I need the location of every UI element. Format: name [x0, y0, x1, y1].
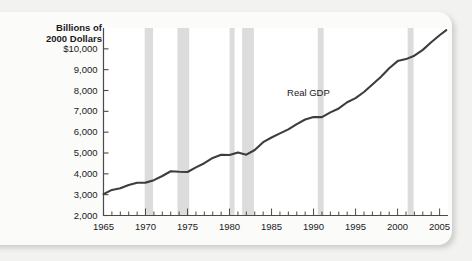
x-axis-tick-label: 2000: [378, 221, 418, 232]
y-axis-tick-label: 2,000: [42, 210, 98, 221]
y-axis-title: Billions of 2000 Dollars: [24, 22, 102, 44]
y-axis-tick-label: $10,000: [42, 43, 98, 54]
plot-background: [104, 28, 449, 216]
x-axis-tick-label: 1965: [84, 221, 124, 232]
recession-band: [177, 28, 189, 216]
page-background: FIGURE Billions of 2000 Dollars Real GDP…: [0, 0, 472, 261]
x-axis-tick-label: 1975: [168, 221, 208, 232]
real-gdp-chart: Billions of 2000 Dollars Real GDP $10,00…: [0, 0, 472, 261]
x-axis-tick-label: 1995: [336, 221, 376, 232]
x-axis-tick-label: 1970: [126, 221, 166, 232]
y-axis-tick-label: 7,000: [42, 105, 98, 116]
x-axis-tick-label: 1980: [210, 221, 250, 232]
y-axis-tick-label: 8,000: [42, 85, 98, 96]
y-axis-tick-label: 4,000: [42, 168, 98, 179]
recession-band: [230, 28, 235, 216]
x-axis-tick-label: 1985: [252, 221, 292, 232]
y-axis-tick-label: 3,000: [42, 189, 98, 200]
y-axis-tick-label: 6,000: [42, 126, 98, 137]
y-axis-tick-label: 5,000: [42, 147, 98, 158]
series-annotation-real-gdp: Real GDP: [287, 87, 330, 98]
recession-band: [318, 28, 324, 216]
recession-band: [242, 28, 254, 216]
x-axis-tick-label: 2005: [420, 221, 460, 232]
recession-band: [145, 28, 153, 216]
y-axis-tick-label: 9,000: [42, 64, 98, 75]
x-axis-tick-label: 1990: [294, 221, 334, 232]
